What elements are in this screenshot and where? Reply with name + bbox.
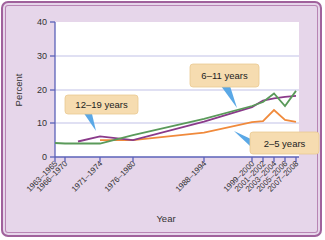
svg-text:0: 0 — [42, 152, 47, 162]
svg-text:6–11 years: 6–11 years — [201, 70, 248, 81]
line-chart: 40 30 20 10 0 Percent 1963–1965 1966–197… — [0, 0, 325, 240]
svg-text:10: 10 — [37, 118, 47, 128]
x-axis-title: Year — [156, 213, 175, 224]
svg-text:1971–1974: 1971–1974 — [70, 159, 105, 194]
y-tick-labels: 40 30 20 10 0 — [37, 17, 47, 162]
svg-text:1976–1980: 1976–1980 — [103, 159, 138, 194]
svg-text:2–5 years: 2–5 years — [264, 138, 306, 149]
svg-text:1988–1994: 1988–1994 — [174, 159, 209, 194]
y-axis-title: Percent — [13, 73, 24, 106]
svg-text:20: 20 — [37, 85, 47, 95]
svg-text:12–19 years: 12–19 years — [75, 99, 128, 110]
svg-text:30: 30 — [37, 51, 47, 61]
svg-text:40: 40 — [37, 17, 47, 27]
x-tick-labels: 1963–1965 1966–1970 1971–1974 1976–1980 … — [25, 159, 301, 194]
